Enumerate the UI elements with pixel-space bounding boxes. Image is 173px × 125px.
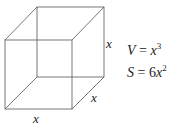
surface-symbol: S	[127, 65, 134, 80]
depth-label: x	[91, 91, 97, 104]
volume-symbol: V	[127, 43, 136, 58]
width-label: x	[33, 112, 39, 125]
height-label: x	[106, 37, 112, 50]
coefficient: 6	[149, 65, 156, 80]
surface-formula: S = 6x2	[127, 64, 167, 80]
exponent: 2	[162, 63, 167, 73]
volume-formula: V = x3	[127, 42, 161, 58]
cube-drawing	[0, 0, 173, 125]
equals-sign: =	[134, 65, 149, 80]
equals-sign: =	[136, 43, 151, 58]
exponent: 3	[157, 41, 162, 51]
